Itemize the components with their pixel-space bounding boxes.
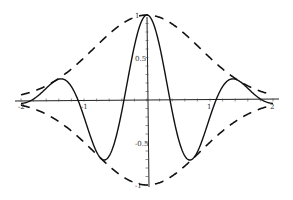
x-tick-label: 1 bbox=[207, 103, 211, 111]
y-tick-label: 1 bbox=[135, 12, 139, 20]
y-tick-label: -1 bbox=[135, 182, 142, 190]
x-tick-label: 2 bbox=[270, 103, 274, 111]
y-tick-label: 0.5 bbox=[135, 55, 146, 63]
wavelet-plot: -2-11210.5-0.5-1 bbox=[0, 0, 293, 200]
y-tick-label: -0.5 bbox=[135, 140, 149, 148]
x-tick-label: -2 bbox=[18, 103, 25, 111]
y-axis bbox=[147, 17, 149, 187]
axes bbox=[15, 15, 279, 187]
